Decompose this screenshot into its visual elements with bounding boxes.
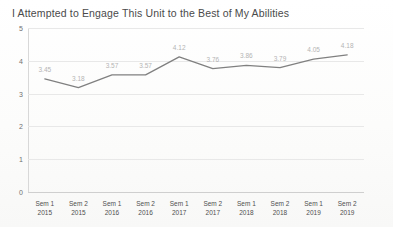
x-tick-year: 2015 (69, 208, 88, 217)
x-tick-label: Sem 22017 (203, 199, 222, 217)
y-tick-label-2: 2 (19, 123, 23, 130)
x-tick-term: Sem 1 (103, 199, 122, 208)
x-tick-label: Sem 12019 (304, 199, 323, 217)
x-tick-term: Sem 2 (69, 199, 88, 208)
y-tick-label-4: 4 (19, 57, 23, 64)
x-tick-year: 2017 (203, 208, 222, 217)
x-tick-label: Sem 12016 (103, 199, 122, 217)
x-tick-label: Sem 22015 (69, 199, 88, 217)
x-tick-year: 2018 (237, 208, 256, 217)
data-label: 3.86 (240, 52, 253, 59)
chart-title: I Attempted to Engage This Unit to the B… (12, 7, 289, 19)
x-tick-year: 2018 (271, 208, 290, 217)
data-label: 3.18 (72, 75, 85, 82)
gridline-0 (28, 192, 364, 193)
x-tick-label: Sem 22018 (271, 199, 290, 217)
x-tick-term: Sem 2 (271, 199, 290, 208)
data-label: 3.57 (139, 62, 152, 69)
x-tick-label: Sem 12015 (35, 199, 54, 217)
x-tick-label: Sem 22016 (136, 199, 155, 217)
y-tick-label-0: 0 (19, 189, 23, 196)
data-label: 4.12 (173, 44, 186, 51)
x-tick-year: 2019 (338, 208, 357, 217)
x-tick-term: Sem 2 (203, 199, 222, 208)
y-tick-label-3: 3 (19, 90, 23, 97)
x-tick-year: 2015 (35, 208, 54, 217)
y-tick-label-1: 1 (19, 156, 23, 163)
x-tick-year: 2017 (170, 208, 189, 217)
x-tick-term: Sem 1 (35, 199, 54, 208)
x-tick-term: Sem 1 (304, 199, 323, 208)
x-tick-year: 2016 (103, 208, 122, 217)
x-tick-term: Sem 2 (338, 199, 357, 208)
data-label: 4.18 (341, 42, 354, 49)
x-tick-year: 2019 (304, 208, 323, 217)
series-polyline (45, 55, 347, 88)
data-label: 3.76 (206, 56, 219, 63)
x-tick-term: Sem 2 (136, 199, 155, 208)
data-label: 4.05 (307, 46, 320, 53)
x-tick-term: Sem 1 (170, 199, 189, 208)
x-tick-year: 2016 (136, 208, 155, 217)
plot-area: 012345 3.453.183.573.574.123.763.863.794… (28, 28, 364, 192)
x-tick-label: Sem 12018 (237, 199, 256, 217)
y-tick-label-5: 5 (19, 25, 23, 32)
x-tick-label: Sem 22019 (338, 199, 357, 217)
x-tick-label: Sem 12017 (170, 199, 189, 217)
data-label: 3.57 (106, 62, 119, 69)
data-label: 3.79 (274, 55, 287, 62)
x-tick-term: Sem 1 (237, 199, 256, 208)
chart-page: I Attempted to Engage This Unit to the B… (0, 0, 393, 227)
data-label: 3.45 (38, 66, 51, 73)
